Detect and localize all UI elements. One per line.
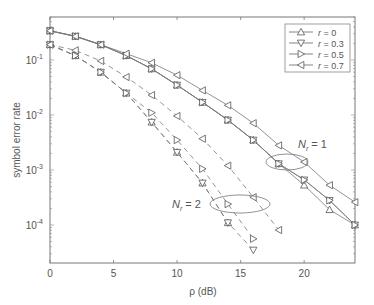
y-tick-label: 10-4 xyxy=(26,218,43,231)
y-tick-label: 10-3 xyxy=(26,163,43,176)
y-axis-label: symbol error rate xyxy=(11,102,22,178)
y-tick-label: 10-1 xyxy=(26,53,43,66)
ser-chart: 05101520 10-110-210-310-4 ρ (dB) symbol … xyxy=(0,0,374,305)
legend-label: r = 0.7 xyxy=(318,61,344,71)
x-tick-label: 20 xyxy=(299,268,311,279)
legend-label: r = 0.5 xyxy=(318,50,344,60)
nr1-label: Nr = 1 xyxy=(298,138,327,152)
x-tick-label: 10 xyxy=(172,268,184,279)
nr2-label: Nr = 2 xyxy=(172,198,201,212)
x-tick-label: 15 xyxy=(235,268,247,279)
y-tick-label: 10-2 xyxy=(26,108,43,121)
x-axis-label: ρ (dB) xyxy=(189,286,216,297)
legend-label: r = 0 xyxy=(318,28,336,38)
legend-label: r = 0.3 xyxy=(318,39,344,49)
legend: r = 0r = 0.3r = 0.5r = 0.7 xyxy=(285,24,350,72)
x-tick-label: 0 xyxy=(47,268,53,279)
x-tick-label: 5 xyxy=(111,268,117,279)
